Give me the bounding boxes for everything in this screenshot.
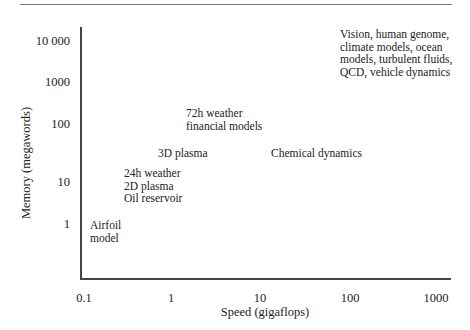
annotation-grand-challenges: Vision, human genome, climate models, oc… xyxy=(340,28,452,78)
y-tick-10000: 10 000 xyxy=(36,34,70,48)
y-tick-1000: 1000 xyxy=(45,75,70,89)
annotation-chemical-dynamics: Chemical dynamics xyxy=(271,147,362,160)
y-tick-100: 100 xyxy=(51,117,70,131)
top-rule xyxy=(20,4,452,5)
x-axis-line xyxy=(80,278,451,280)
x-tick-10: 10 xyxy=(254,291,267,305)
x-tick-100: 100 xyxy=(341,291,360,305)
annotation-72h-weather: 72h weather financial models xyxy=(186,107,262,132)
y-axis-label: Memory (megawords) xyxy=(19,107,34,219)
y-tick-10: 10 xyxy=(58,175,71,189)
annotation-airfoil: Airfoil model xyxy=(90,219,121,244)
y-tick-1: 1 xyxy=(64,217,70,231)
annotation-24h-weather: 24h weather 2D plasma Oil reservoir xyxy=(124,167,182,205)
x-tick-1: 1 xyxy=(168,291,174,305)
y-axis-line xyxy=(80,27,82,279)
annotation-3d-plasma: 3D plasma xyxy=(158,147,208,160)
x-tick-0.1: 0.1 xyxy=(76,291,92,305)
x-axis-label: Speed (gigaflops) xyxy=(221,305,310,320)
x-tick-1000: 1000 xyxy=(424,291,449,305)
